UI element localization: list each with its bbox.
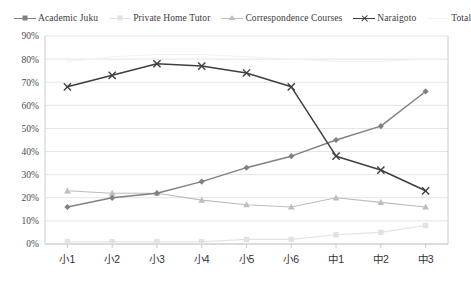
legend-item-label: Correspondence Courses [245, 13, 342, 23]
legend-item-label: Naraigoto [377, 13, 416, 23]
data-point-marker [289, 237, 294, 242]
chart-plot-area: 90%80%70%60%50%40%30%20%10%0% 小1小2小3小4小5… [0, 28, 455, 281]
y-axis-tick-label: 40% [22, 147, 40, 157]
y-axis-tick-label: 90% [22, 31, 40, 41]
y-axis-tick-label: 30% [22, 170, 40, 180]
square-marker-icon [109, 13, 131, 24]
data-point-marker [154, 239, 159, 244]
data-point-marker [423, 223, 428, 228]
y-axis-tick-label: 80% [22, 55, 40, 65]
y-axis-tick-label: 50% [22, 124, 40, 134]
chart-legend: Academic JukuPrivate Home TutorCorrespon… [0, 8, 455, 28]
diamond-marker-icon [14, 13, 36, 24]
data-point-marker [333, 232, 338, 237]
data-point-marker [333, 137, 339, 143]
x-axis-tick-label: 中3 [418, 253, 434, 265]
data-point-marker [244, 237, 249, 242]
legend-item-label: Private Home Tutor [133, 13, 210, 23]
x-marker-icon [353, 13, 375, 24]
y-axis-tick-label: 60% [22, 101, 40, 111]
legend-item-naraigoto[interactable]: Naraigoto [353, 13, 416, 24]
data-point-marker [64, 204, 70, 210]
series-academic-juku [64, 88, 428, 210]
line-marker-icon [427, 13, 449, 24]
data-point-marker [110, 239, 115, 244]
x-axis-tick-label: 中2 [373, 253, 389, 265]
series-private-home-tutor [65, 223, 429, 245]
data-point-marker [243, 165, 249, 171]
legend-item-academic-juku[interactable]: Academic Juku [14, 13, 98, 24]
triangle-marker-icon [221, 13, 243, 24]
data-point-marker [377, 166, 384, 173]
series-lines [64, 55, 429, 245]
x-axis: 小1小2小3小4小5小6中1中2中3 [59, 244, 433, 265]
y-axis-tick-label: 10% [22, 216, 40, 226]
series-naraigoto [64, 60, 429, 194]
x-axis-tick-label: 小4 [194, 253, 210, 265]
data-point-marker [378, 230, 383, 235]
x-axis-tick-label: 小1 [59, 253, 75, 265]
data-point-marker [332, 153, 339, 160]
legend-item-label: Academic Juku [38, 13, 98, 23]
x-axis-tick-label: 中1 [328, 253, 344, 265]
data-point-marker [288, 153, 294, 159]
line-chart: 90%80%70%60%50%40%30%20%10%0% 小1小2小3小4小5… [0, 28, 455, 281]
x-axis-tick-label: 小6 [283, 253, 299, 265]
y-axis-tick-label: 0% [26, 239, 39, 249]
series-line [67, 64, 425, 191]
x-axis-tick-label: 小5 [239, 253, 255, 265]
legend-item-total[interactable]: Total [427, 13, 471, 24]
legend-item-label: Total [451, 13, 471, 23]
y-axis-tick-label: 70% [22, 78, 40, 88]
legend-item-correspondence-courses[interactable]: Correspondence Courses [221, 13, 342, 24]
y-axis-tick-label: 20% [22, 193, 40, 203]
data-point-marker [65, 239, 70, 244]
series-correspondence-courses [64, 188, 429, 210]
legend-item-private-home-tutor[interactable]: Private Home Tutor [109, 13, 210, 24]
y-axis: 90%80%70%60%50%40%30%20%10%0% [22, 31, 40, 249]
data-point-marker [288, 83, 295, 90]
gridlines [45, 36, 448, 244]
series-line [67, 92, 425, 208]
series-line [67, 55, 425, 62]
x-axis-tick-label: 小2 [104, 253, 120, 265]
data-point-marker [199, 239, 204, 244]
series-total [67, 55, 425, 62]
x-axis-tick-label: 小3 [149, 253, 165, 265]
data-point-marker [422, 187, 429, 194]
data-point-marker [199, 179, 205, 185]
